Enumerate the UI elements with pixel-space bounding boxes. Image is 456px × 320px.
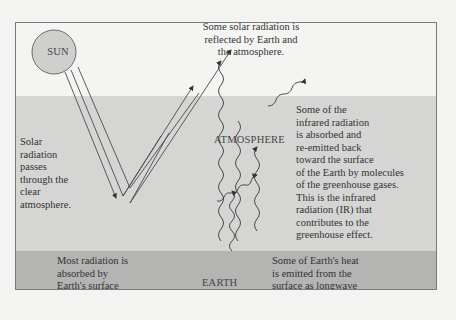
caption-line: is emitted from the: [272, 268, 432, 281]
caption-line: radiation: [20, 149, 90, 162]
earth-label: EARTH: [202, 277, 237, 290]
infrared-waves: [217, 61, 305, 251]
absorbed-caption: Most radiation is absorbed by Earth's su…: [57, 255, 177, 290]
caption-line: through the: [20, 174, 90, 187]
caption-line: atmosphere.: [20, 199, 90, 212]
caption-line: passes: [20, 161, 90, 174]
caption-line: Solar: [20, 136, 90, 149]
caption-line: Some solar radiation is: [181, 22, 321, 34]
reflected-rays: [123, 50, 231, 203]
caption-line: infrared radiation: [296, 117, 436, 130]
caption-line: Some of the: [296, 104, 436, 117]
caption-line: reflected by Earth and: [181, 34, 321, 47]
caption-line: clear: [20, 186, 90, 199]
caption-line: toward the surface: [296, 154, 436, 167]
emitted-caption: Some of Earth's heat is emitted from the…: [272, 255, 432, 290]
atmosphere-label: ATMOSPHERE: [214, 134, 285, 147]
caption-line: is absorbed and: [296, 129, 436, 142]
sun-label: SUN: [38, 46, 78, 57]
caption-line: surface as longwave: [272, 280, 432, 290]
caption-line: absorbed by: [57, 268, 177, 281]
caption-line: re-emitted back: [296, 142, 436, 155]
caption-line: Some of Earth's heat: [272, 255, 432, 268]
caption-line: contributes to the: [296, 217, 436, 230]
caption-line: of the Earth by molecules: [296, 167, 436, 180]
caption-line: greenhouse effect.: [296, 229, 436, 242]
caption-line: Earth's surface: [57, 280, 177, 290]
caption-line: Most radiation is: [57, 255, 177, 268]
reemitted-caption: Some of the infrared radiation is absorb…: [296, 104, 436, 242]
caption-line: of the greenhouse gases.: [296, 179, 436, 192]
caption-line: the atmosphere.: [181, 46, 321, 59]
passes-caption: Solar radiation passes through the clear…: [20, 136, 90, 211]
diagram-frame: SUN Some solar radiation is reflected by…: [15, 22, 437, 290]
caption-line: This is the infrared: [296, 192, 436, 205]
reflected-caption: Some solar radiation is reflected by Ear…: [181, 22, 321, 59]
caption-line: radiation (IR) that: [296, 204, 436, 217]
